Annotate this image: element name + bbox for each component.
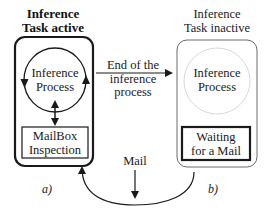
active-process-line1: Inference bbox=[31, 66, 79, 80]
transition-line1: End of the bbox=[107, 58, 160, 72]
inactive-process-line2: Process bbox=[198, 80, 236, 94]
cycle-arrow-down-icon bbox=[21, 79, 29, 88]
inactive-title-line2: Task inactive bbox=[184, 21, 251, 35]
transition-line3: process bbox=[114, 85, 152, 99]
active-process-line2: Process bbox=[36, 80, 74, 94]
mail-label: Mail bbox=[123, 154, 147, 168]
cycle-arrow-up-icon bbox=[82, 75, 90, 84]
caption-a: a) bbox=[42, 182, 52, 196]
waiting-line2: for a Mail bbox=[191, 144, 242, 158]
active-title-line1: Inference bbox=[27, 6, 80, 21]
mail-arrival: Mail bbox=[82, 154, 194, 205]
waiting-line1: Waiting bbox=[196, 130, 236, 144]
inactive-title-line1: Inference bbox=[193, 7, 241, 21]
mailbox-line2: Inspection bbox=[29, 143, 82, 157]
caption-b: b) bbox=[208, 182, 218, 196]
inactive-process-line1: Inference bbox=[193, 66, 241, 80]
panel-inactive-task: Inference Task inactive Inference Proces… bbox=[177, 7, 257, 196]
inference-task-state-diagram: Inference Task active Inference Process … bbox=[0, 0, 265, 217]
panel-active-task: Inference Task active Inference Process … bbox=[15, 6, 93, 196]
active-title-line2: Task active bbox=[22, 20, 84, 35]
transition-line2: inference bbox=[110, 72, 157, 86]
mailbox-line1: MailBox bbox=[33, 129, 78, 143]
reactivation-curve-arrow-icon bbox=[82, 168, 194, 205]
end-of-process-transition: End of the inference process bbox=[96, 58, 171, 99]
